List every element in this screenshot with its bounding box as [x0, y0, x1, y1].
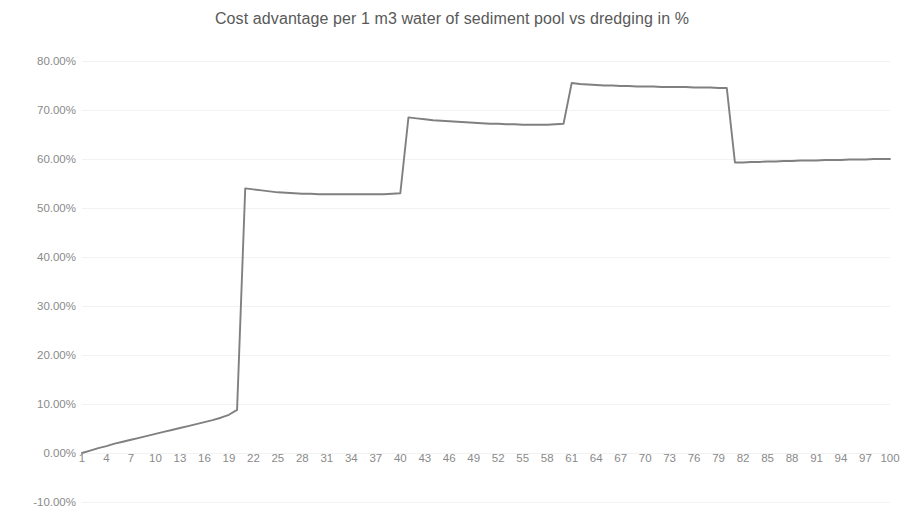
x-axis-tick-label: 40	[394, 452, 407, 464]
x-axis-tick-label: 52	[492, 452, 505, 464]
gridline	[82, 502, 890, 503]
x-axis-tick-label: 85	[761, 452, 774, 464]
chart-title: Cost advantage per 1 m3 water of sedimen…	[0, 10, 904, 28]
x-axis-tick-label: 79	[712, 452, 725, 464]
x-axis-tick-label: 91	[810, 452, 823, 464]
series-line-cost-advantage	[82, 83, 890, 453]
x-axis-tick-label: 13	[174, 452, 187, 464]
x-axis-tick-label: 28	[296, 452, 309, 464]
y-axis-tick-label: 60.00%	[6, 153, 76, 165]
x-axis-tick-label: 10	[149, 452, 162, 464]
x-axis-tick-label: 100	[880, 452, 899, 464]
x-axis-tick-label: 73	[663, 452, 676, 464]
x-axis-tick-label: 43	[418, 452, 431, 464]
x-axis-tick-label: 37	[369, 452, 382, 464]
x-axis-tick-label: 1	[79, 452, 85, 464]
x-axis-tick-label: 64	[590, 452, 603, 464]
y-axis-tick-label: 10.00%	[6, 398, 76, 410]
y-axis-tick-label: 40.00%	[6, 251, 76, 263]
x-axis-tick-label: 97	[859, 452, 872, 464]
y-axis-tick-label: 0.00%	[6, 447, 76, 459]
x-axis: 1471013161922252831343740434649525558616…	[82, 452, 890, 472]
series-line-chart	[82, 61, 890, 502]
y-axis-tick-label: 20.00%	[6, 349, 76, 361]
x-axis-tick-label: 88	[786, 452, 799, 464]
x-axis-tick-label: 55	[516, 452, 529, 464]
x-axis-tick-label: 34	[345, 452, 358, 464]
x-axis-tick-label: 22	[247, 452, 260, 464]
x-axis-tick-label: 16	[198, 452, 211, 464]
y-axis-tick-label: 80.00%	[6, 55, 76, 67]
x-axis-tick-label: 94	[835, 452, 848, 464]
y-axis-tick-label: 30.00%	[6, 300, 76, 312]
x-axis-tick-label: 67	[614, 452, 627, 464]
x-axis-tick-label: 4	[103, 452, 109, 464]
y-axis-tick-label: -10.00%	[6, 496, 76, 508]
x-axis-tick-label: 46	[443, 452, 456, 464]
x-axis-tick-label: 25	[271, 452, 284, 464]
x-axis-tick-label: 7	[128, 452, 134, 464]
x-axis-tick-label: 49	[467, 452, 480, 464]
x-axis-tick-label: 82	[737, 452, 750, 464]
x-axis-tick-label: 19	[223, 452, 236, 464]
x-axis-tick-label: 76	[688, 452, 701, 464]
plot-area	[82, 61, 890, 502]
x-axis-tick-label: 58	[541, 452, 554, 464]
y-axis-tick-label: 50.00%	[6, 202, 76, 214]
x-axis-tick-label: 61	[565, 452, 578, 464]
y-axis: 80.00%70.00%60.00%50.00%40.00%30.00%20.0…	[0, 61, 76, 502]
y-axis-tick-label: 70.00%	[6, 104, 76, 116]
x-axis-tick-label: 70	[639, 452, 652, 464]
x-axis-tick-label: 31	[320, 452, 333, 464]
chart-container: Cost advantage per 1 m3 water of sedimen…	[0, 0, 904, 523]
